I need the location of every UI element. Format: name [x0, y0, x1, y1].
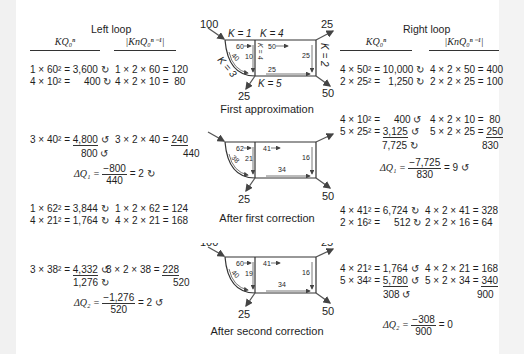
left-block1: 1 × 60² = 3,600 ↻ 4 × 10² = 400 ↻: [30, 64, 111, 88]
svg-text:16: 16: [302, 269, 310, 276]
right-block1-derivatives: 4 × 2 × 50 = 400 2 × 2 × 25 = 100: [430, 64, 503, 88]
left-dq2: ΔQ₂ = −1,276520 = 2 ↺: [74, 292, 163, 315]
right-dq1: ΔQ₁ = −7,725830 = 9 ↺: [380, 157, 469, 180]
left-dq1: ΔQ₁ = −800440 = 2 ↻: [74, 163, 155, 186]
svg-text:K = 5: K = 5: [258, 78, 282, 89]
left-block4-row: 3 × 38² = 4,332 ↺: [30, 264, 109, 276]
left-block2-row: 3 × 40² = 4,800 ↺: [30, 134, 109, 146]
right-block2-sum: 7,725 ↻: [382, 140, 418, 152]
svg-text:K = 4: K = 4: [260, 28, 284, 39]
svg-text:25: 25: [238, 90, 250, 100]
equation: 2 × 16² = 512 ↻: [340, 217, 421, 229]
equation: 4 × 2 × 41 = 328: [425, 205, 498, 217]
left-block2-deriv: 3 × 2 × 40 = 240: [115, 134, 188, 146]
svg-text:34: 34: [278, 281, 286, 288]
svg-text:41: 41: [263, 145, 271, 152]
svg-text:50: 50: [322, 87, 334, 99]
equation: 4 × 10² = 400 ↻: [30, 76, 111, 88]
svg-text:25: 25: [321, 130, 333, 132]
svg-text:25: 25: [238, 193, 250, 205]
right-block2-row2: 5 × 25² = 3,125 ↺: [340, 126, 419, 138]
svg-text:K = 1: K = 1: [228, 28, 252, 39]
pipe-network-diagram-second: 100 25 50 25 62 21 38 41 16 34: [200, 130, 340, 212]
left-block3: 1 × 62² = 3,844 ↻ 4 × 21² = 1,764 ↻: [30, 203, 109, 227]
svg-text:100: 100: [200, 243, 218, 248]
right-block4-row1: 4 × 21² = 1,764 ↺: [340, 263, 419, 275]
right-block4-deriv2: 5 × 2 × 34 = 340: [425, 275, 498, 287]
equation: 1 × 60² = 3,600 ↻: [30, 64, 111, 76]
right-block4-sum: 308 ↺: [383, 289, 410, 301]
svg-text:25: 25: [321, 243, 333, 248]
left-block2-sum: 800 ↺: [81, 148, 108, 160]
equation-value: 4,800: [73, 134, 98, 146]
left-block2-deriv-sum: 440: [183, 148, 200, 160]
svg-text:41: 41: [263, 260, 271, 267]
left-block3-derivatives: 1 × 2 × 62 = 124 4 × 2 × 21 = 168: [115, 203, 188, 227]
right-block4-deriv-sum: 900: [477, 289, 494, 301]
right-loop-title: Right loop: [403, 23, 450, 35]
right-block4-row2: 5 × 34² = 5,780 ↺: [340, 275, 419, 287]
pipe-network-diagram-first: 100 25 50 25 K = 1 K = 4 K = 5 K = 2 K =…: [200, 18, 340, 100]
svg-text:10: 10: [245, 53, 253, 60]
svg-text:25: 25: [321, 18, 333, 30]
svg-text:25: 25: [238, 308, 250, 320]
pipe-network-diagram-third: 100 25 50 25 60 19 40 41 16 34: [200, 243, 340, 325]
left-page-margin: [0, 0, 16, 354]
equation: 4 × 2 × 10 = 80: [115, 76, 188, 88]
right-page-margin: [499, 0, 524, 354]
equation: 4 × 2 × 50 = 400: [430, 64, 503, 76]
left-col1-header: KQ₀ⁿ: [30, 36, 100, 51]
left-block4-deriv: 3 × 2 × 38 = 228: [106, 264, 179, 276]
diagram-caption-second: After first correction: [212, 212, 322, 224]
inflow-label: 100: [200, 18, 218, 30]
svg-text:25: 25: [268, 66, 276, 73]
right-block2-deriv-sum: 830: [482, 140, 499, 152]
svg-text:50: 50: [322, 190, 334, 202]
svg-text:25: 25: [302, 52, 310, 59]
equation: 1 × 62² = 3,844 ↻: [30, 203, 109, 215]
right-block2-deriv1: 4 × 2 × 10 = 80: [430, 114, 500, 126]
left-col2-header: |KnQ₀ⁿ⁻¹|: [114, 36, 176, 51]
svg-text:19: 19: [245, 270, 253, 277]
right-block1: 4 × 50² = 10,000 ↻ 2 × 25² = 1,250 ↻: [340, 64, 424, 88]
svg-text:K = 2: K = 2: [319, 43, 330, 67]
svg-text:62: 62: [236, 145, 244, 152]
equation: 2 × 2 × 16 = 64: [425, 217, 498, 229]
svg-text:K = 4: K = 4: [257, 43, 264, 60]
svg-text:60: 60: [236, 260, 244, 267]
equation: 4 × 21² = 1,764 ↻: [30, 215, 109, 227]
left-block4-sum: 1,276 ↻: [73, 277, 109, 289]
left-block1-derivatives: 1 × 2 × 60 = 120 4 × 2 × 10 = 80: [115, 64, 188, 88]
right-block3-derivatives: 4 × 2 × 41 = 328 2 × 2 × 16 = 64: [425, 205, 498, 229]
svg-text:34: 34: [278, 166, 286, 173]
diagram-caption-first: First approximation: [212, 103, 322, 115]
svg-text:16: 16: [302, 154, 310, 161]
left-loop-title: Left loop: [91, 23, 131, 35]
equation: 2 × 25² = 1,250 ↻: [340, 76, 424, 88]
right-block2-deriv2: 5 × 2 × 25 = 250: [430, 126, 503, 138]
equation: 4 × 41² = 6,724 ↻: [340, 205, 421, 217]
svg-text:50: 50: [322, 305, 334, 317]
left-block4-deriv-sum: 520: [173, 277, 190, 289]
right-block2-row1: 4 × 10² = 400 ↺: [340, 114, 421, 126]
equation: 1 × 2 × 60 = 120: [115, 64, 188, 76]
right-block3: 4 × 41² = 6,724 ↻ 2 × 16² = 512 ↻: [340, 205, 421, 229]
svg-text:21: 21: [245, 155, 253, 162]
right-dq2: ΔQ₂ = −308900 = 0: [383, 314, 453, 337]
diagram-caption-third: After second correction: [205, 325, 329, 337]
right-block4-deriv1: 4 × 2 × 21 = 168: [425, 263, 498, 275]
equation: 4 × 2 × 21 = 168: [115, 215, 188, 227]
equation: 2 × 2 × 25 = 100: [430, 76, 503, 88]
right-col2-header: |KnQ₀ⁿ⁻¹|: [429, 36, 499, 51]
equation: 4 × 50² = 10,000 ↻: [340, 64, 424, 76]
equation: 1 × 2 × 62 = 124: [115, 203, 188, 215]
svg-text:60: 60: [236, 43, 244, 50]
right-col1-header: KQ₀ⁿ: [340, 36, 412, 51]
svg-text:50: 50: [268, 43, 276, 50]
